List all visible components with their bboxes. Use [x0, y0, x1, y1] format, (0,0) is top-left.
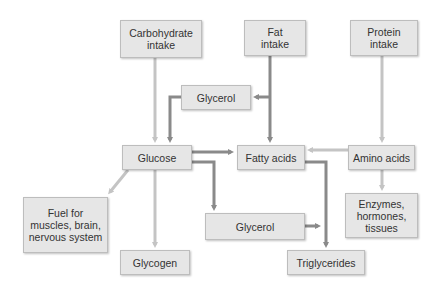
node-label: Glycerol	[197, 92, 236, 104]
node-carbohydrate-intake: Carbohydrate intake	[120, 20, 202, 58]
node-glucose: Glucose	[122, 145, 192, 170]
node-protein-intake: Protein intake	[350, 20, 418, 56]
node-label: Enzymes, hormones, tissues	[354, 198, 409, 234]
node-label: Fatty acids	[246, 152, 297, 164]
node-enzymes: Enzymes, hormones, tissues	[345, 193, 418, 238]
node-amino-acids: Amino acids	[348, 145, 415, 170]
node-fuel: Fuel for muscles, brain, nervous system	[23, 197, 108, 253]
node-fatty-acids: Fatty acids	[237, 145, 305, 170]
node-label: Amino acids	[353, 152, 410, 164]
node-label: Glucose	[138, 152, 177, 164]
node-glycerol-top: Glycerol	[181, 85, 251, 110]
node-glycerol-bottom: Glycerol	[205, 213, 305, 240]
arrow-glucose-to-fuel	[110, 170, 128, 192]
arrow-glucose-to-glycerol	[192, 162, 214, 208]
node-label: Glycerol	[236, 221, 275, 233]
node-label: Protein intake	[361, 26, 407, 50]
node-label: Fat intake	[259, 26, 291, 50]
node-triglycerides: Triglycerides	[287, 250, 365, 275]
node-label: Fuel for muscles, brain, nervous system	[26, 207, 105, 243]
node-label: Glycogen	[133, 257, 177, 269]
node-glycogen: Glycogen	[120, 250, 190, 275]
node-label: Triglycerides	[296, 257, 355, 269]
node-fat-intake: Fat intake	[244, 20, 306, 56]
node-label: Carbohydrate intake	[123, 27, 199, 51]
arrow-glycerol-to-glucose	[170, 97, 181, 140]
arrow-fatty-acids-to-triglycerides	[305, 162, 326, 245]
